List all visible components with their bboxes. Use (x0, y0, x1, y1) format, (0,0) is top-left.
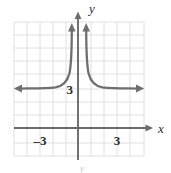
curve-arrow-right-icon (136, 85, 144, 93)
y-axis-tick-label-3: 3 (67, 82, 74, 97)
graph-figure: y x 3 3 –3 y (0, 0, 171, 173)
curve-arrow-up-right-icon (82, 23, 90, 32)
x-axis-arrowhead-icon (146, 125, 154, 132)
y-axis-arrowhead-icon (75, 12, 82, 20)
x-axis-tick-label-neg3: –3 (33, 133, 48, 148)
bottom-watermark-label: y (79, 163, 85, 173)
x-axis-tick-label-3: 3 (114, 133, 121, 148)
y-axis-label: y (87, 1, 95, 16)
curve-right-branch (86, 31, 139, 89)
curve-left-branch (19, 31, 72, 89)
curve-arrowheads (14, 23, 144, 93)
function-curve (19, 31, 140, 89)
x-axis-label: x (157, 121, 164, 136)
curve-arrow-left-icon (14, 85, 22, 93)
coordinate-plane: y x 3 3 –3 y (0, 0, 171, 173)
curve-arrow-up-left-icon (68, 23, 76, 32)
